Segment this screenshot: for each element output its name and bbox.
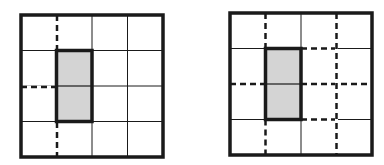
diagram-canvas bbox=[0, 0, 384, 165]
